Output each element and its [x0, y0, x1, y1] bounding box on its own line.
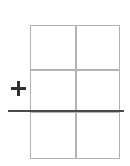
plus-icon-vertical-bar [17, 81, 19, 96]
row-insert-indicator[interactable] [8, 110, 124, 113]
table-cell[interactable] [31, 69, 75, 111]
plus-icon[interactable] [11, 81, 26, 96]
table-cell[interactable] [31, 26, 75, 69]
table-column-divider[interactable] [75, 26, 77, 158]
table-cell[interactable] [75, 69, 119, 111]
row-insert-indicator-label [8, 110, 9, 111]
table-row-divider[interactable] [31, 69, 119, 71]
table-grid [30, 25, 120, 159]
table-cell[interactable] [75, 26, 119, 69]
screenshot-canvas [0, 0, 130, 166]
table-cell[interactable] [31, 111, 75, 158]
table-cell[interactable] [75, 111, 119, 158]
plus-handle-label [11, 81, 12, 82]
